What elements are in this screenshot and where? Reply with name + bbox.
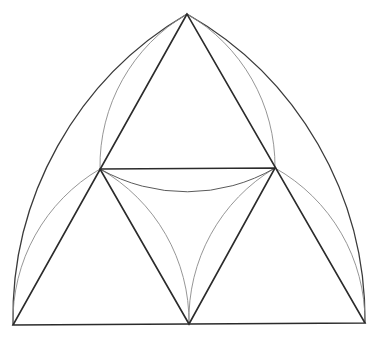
- middle-sag-arc: [100, 168, 275, 192]
- faint-caption-strip: [0, 328, 379, 340]
- outer-triangle: [13, 14, 365, 325]
- geometric-diagram: [0, 0, 379, 340]
